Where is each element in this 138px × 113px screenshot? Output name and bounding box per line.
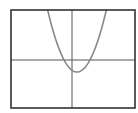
plot-background (0, 0, 138, 113)
parabola-chart (0, 0, 138, 113)
